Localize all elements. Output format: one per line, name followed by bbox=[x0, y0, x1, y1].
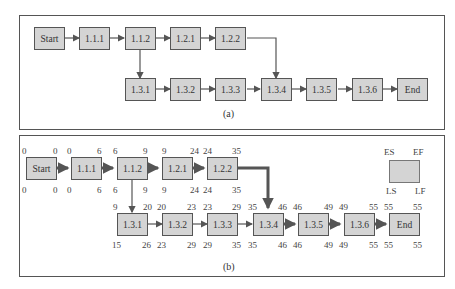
n111-es: 0 bbox=[67, 147, 72, 156]
n132-ef: 23 bbox=[187, 203, 196, 212]
n132-es: 20 bbox=[157, 203, 166, 212]
end-lf: 55 bbox=[413, 241, 422, 250]
n134-lf: 46 bbox=[278, 241, 287, 250]
node-b-1-3-3: 1.3.3 bbox=[207, 213, 238, 236]
legend-ef: EF bbox=[413, 148, 424, 157]
node-b-1-3-6: 1.3.6 bbox=[344, 213, 375, 236]
n131-lf: 26 bbox=[142, 241, 151, 250]
node-b-1-3-4: 1.3.4 bbox=[253, 213, 284, 236]
node-b-1-3-1: 1.3.1 bbox=[117, 213, 148, 236]
n135-lf: 49 bbox=[324, 241, 333, 250]
n133-ls: 29 bbox=[203, 241, 212, 250]
start-ef: 0 bbox=[53, 147, 58, 156]
n132-ls: 23 bbox=[157, 241, 166, 250]
n135-ls: 46 bbox=[293, 241, 302, 250]
node-b-1-3-2: 1.3.2 bbox=[162, 213, 193, 236]
n136-ef: 55 bbox=[369, 203, 378, 212]
end-ls: 55 bbox=[384, 241, 393, 250]
end-es: 55 bbox=[384, 203, 393, 212]
legend-lf: LF bbox=[415, 187, 426, 196]
n112-ef: 9 bbox=[143, 147, 148, 156]
legend-ls: LS bbox=[386, 187, 397, 196]
start-ls: 0 bbox=[22, 186, 27, 195]
n111-ls: 0 bbox=[67, 186, 72, 195]
n121-ls: 9 bbox=[162, 186, 167, 195]
n134-ls: 35 bbox=[248, 241, 257, 250]
start-es: 0 bbox=[22, 147, 27, 156]
start-lf: 0 bbox=[53, 186, 58, 195]
n112-es: 6 bbox=[113, 147, 118, 156]
node-b-1-2-2: 1.2.2 bbox=[207, 157, 238, 180]
n112-lf: 9 bbox=[143, 186, 148, 195]
n121-es: 9 bbox=[162, 147, 167, 156]
n134-es: 35 bbox=[248, 203, 257, 212]
node-b-1-3-5: 1.3.5 bbox=[298, 213, 329, 236]
n132-lf: 29 bbox=[187, 241, 196, 250]
n135-ef: 49 bbox=[324, 203, 333, 212]
n131-es: 9 bbox=[113, 203, 118, 212]
n136-lf: 55 bbox=[369, 241, 378, 250]
n135-es: 46 bbox=[293, 203, 302, 212]
n136-es: 49 bbox=[339, 203, 348, 212]
caption-b: (b) bbox=[223, 261, 235, 272]
n134-ef: 46 bbox=[278, 203, 287, 212]
n111-lf: 6 bbox=[97, 186, 102, 195]
n121-lf: 24 bbox=[190, 186, 199, 195]
node-b-end: End bbox=[389, 213, 420, 236]
n131-ef: 20 bbox=[143, 203, 152, 212]
n111-ef: 6 bbox=[97, 147, 102, 156]
n133-es: 23 bbox=[203, 203, 212, 212]
n112-ls: 6 bbox=[113, 186, 118, 195]
n121-ef: 24 bbox=[190, 147, 199, 156]
node-b-start: Start bbox=[26, 157, 57, 180]
n133-lf: 35 bbox=[232, 241, 241, 250]
node-b-1-1-2: 1.1.2 bbox=[117, 157, 148, 180]
n136-ls: 49 bbox=[339, 241, 348, 250]
n122-lf: 35 bbox=[232, 186, 241, 195]
n131-ls: 15 bbox=[112, 241, 121, 250]
node-b-1-1-1: 1.1.1 bbox=[71, 157, 102, 180]
end-ef: 55 bbox=[413, 203, 422, 212]
node-b-1-2-1: 1.2.1 bbox=[162, 157, 193, 180]
n122-ls: 24 bbox=[203, 186, 212, 195]
legend-es: ES bbox=[384, 148, 395, 157]
n122-es: 24 bbox=[203, 147, 212, 156]
legend-box bbox=[389, 160, 420, 183]
n122-ef: 35 bbox=[232, 147, 241, 156]
n133-ef: 29 bbox=[232, 203, 241, 212]
